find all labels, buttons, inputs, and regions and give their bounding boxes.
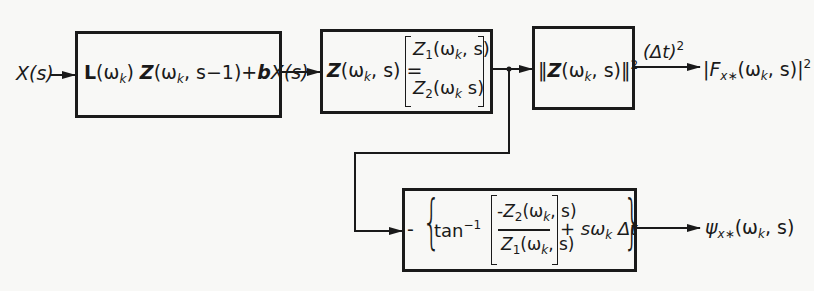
norm-sub: k — [585, 70, 592, 84]
den-arg: (ω — [520, 234, 541, 254]
vector-row-2: Z2(ωk s) — [413, 79, 484, 100]
lhs-arg: (ω — [341, 59, 364, 81]
z1-sub: 1 — [425, 48, 433, 62]
z1: Z — [413, 38, 425, 59]
Z-vector: Z — [327, 59, 341, 81]
norm-rest: , s)‖ — [592, 59, 631, 81]
scale-text: (Δt) — [643, 41, 676, 62]
z2-k: k — [455, 87, 462, 101]
power-output-label: |Fx∗(ωk, s)|2 — [703, 58, 811, 82]
power-rest: , s)| — [768, 58, 804, 80]
z2-rest: s) — [462, 77, 484, 98]
power-pre: |F — [703, 58, 720, 80]
norm-open: ‖ — [538, 59, 548, 81]
L-close: ) — [126, 61, 133, 83]
phase-pre: ψ — [705, 216, 718, 238]
z1-rest: , s) — [462, 38, 490, 59]
z2: Z — [413, 77, 425, 98]
phase-sub: x∗ — [718, 227, 735, 241]
z1-arg: (ω — [433, 38, 455, 59]
block-diagram: X(s) L(ωk) Z(ωk, s−1)+bX(s) Z(ωk, s) = Z… — [0, 0, 814, 291]
scale-label: (Δt)2 — [643, 40, 684, 61]
Z-vector: Z — [140, 61, 154, 83]
power-pow: 2 — [804, 57, 812, 71]
vector-row-1: Z1(ωk, s) — [413, 40, 490, 61]
tan: tan — [434, 220, 464, 241]
phase-asub: k — [758, 227, 765, 241]
plus-s-omega: + sω — [560, 218, 605, 239]
power-sub: x∗ — [720, 69, 737, 83]
Z-rest: , s−1)+ — [184, 61, 257, 83]
brace-right: } — [623, 193, 641, 251]
phase-rest: , s) — [765, 216, 794, 238]
bX: X(s) — [271, 61, 309, 83]
b-vector: b — [257, 61, 271, 83]
phase-minus: - — [407, 220, 414, 239]
L-arg: (ω — [96, 61, 119, 83]
z1-k: k — [455, 48, 462, 62]
arctan-label: tan−1 — [434, 219, 481, 240]
phase-arg: (ω — [735, 216, 758, 238]
num-arg: (ω — [522, 201, 543, 221]
den-z: Z — [501, 234, 513, 254]
norm-arg: (ω — [561, 59, 584, 81]
norm-expr: ‖Z(ωk, s)‖2 — [538, 59, 638, 83]
input-label: X(s) — [16, 64, 54, 83]
num-z: Z — [503, 201, 515, 221]
fraction-bar — [498, 229, 550, 231]
L-matrix: L — [84, 61, 96, 83]
Z-vector: Z — [548, 59, 562, 81]
z2-arg: (ω — [433, 77, 455, 98]
scale-pow: 2 — [676, 39, 684, 53]
Z-sub: k — [177, 72, 184, 86]
Z-arg: (ω — [154, 61, 177, 83]
phase-output-label: ψx∗(ωk, s) — [705, 218, 794, 240]
power-arg: (ω — [738, 58, 761, 80]
tan-inv: −1 — [464, 218, 482, 232]
recursion-expr: L(ωk) Z(ωk, s−1)+bX(s) — [84, 63, 309, 85]
norm-pow: 2 — [630, 58, 638, 72]
power-asub: k — [761, 69, 768, 83]
z2-sub: 2 — [425, 87, 433, 101]
matrix-bracket-left — [405, 36, 411, 107]
